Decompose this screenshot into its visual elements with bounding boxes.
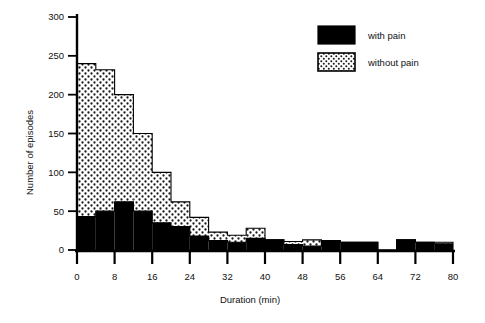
bar-segment-with-pain xyxy=(284,245,303,250)
bar-segment-with-pain xyxy=(115,202,134,250)
y-tick-label: 300 xyxy=(48,11,64,22)
bar-segment-with-pain xyxy=(152,223,171,250)
y-tick-label: 150 xyxy=(48,128,64,139)
histogram-svg: 050100150200250300 08162432404856647280 … xyxy=(0,0,485,323)
bar-segment-without-pain xyxy=(152,172,171,222)
x-tick-label: 72 xyxy=(410,271,421,282)
bar-segment-without-pain xyxy=(96,70,115,211)
bar-segment-with-pain xyxy=(227,242,246,250)
x-tick-label: 56 xyxy=(335,271,346,282)
y-tick-label: 0 xyxy=(59,244,64,255)
y-tick-label: 100 xyxy=(48,167,64,178)
bar-segment-without-pain xyxy=(77,64,96,217)
bar-segment-with-pain xyxy=(359,242,378,250)
bar-segment-without-pain xyxy=(303,240,322,246)
bar-segment-with-pain xyxy=(321,241,340,250)
bar-segment-without-pain xyxy=(171,202,190,227)
y-tick-label: 250 xyxy=(48,50,64,61)
bar-segment-with-pain xyxy=(265,240,284,250)
x-axis-title: Duration (min) xyxy=(220,294,280,305)
x-tick-label: 16 xyxy=(147,271,158,282)
bar-segment-with-pain xyxy=(77,217,96,250)
x-tick-label: 48 xyxy=(297,271,308,282)
bar-segment-with-pain xyxy=(340,242,359,250)
bar-segment-without-pain xyxy=(190,217,209,236)
x-tick-label: 8 xyxy=(112,271,117,282)
bar-segment-with-pain xyxy=(190,236,209,250)
bar-segment-with-pain xyxy=(434,244,453,250)
bar-segment-with-pain xyxy=(209,241,228,250)
x-tick-label: 24 xyxy=(185,271,196,282)
x-tick-label: 40 xyxy=(260,271,271,282)
bar-segment-with-pain xyxy=(171,227,190,250)
y-tick-label: 200 xyxy=(48,89,64,100)
bar-segment-without-pain xyxy=(246,228,265,238)
bar-segment-without-pain xyxy=(209,232,228,241)
x-tick-label: 80 xyxy=(448,271,459,282)
legend-label-with-pain: with pain xyxy=(367,30,406,41)
bar-segment-without-pain xyxy=(115,95,134,202)
legend-label-without-pain: without pain xyxy=(367,57,419,68)
bar-segment-without-pain xyxy=(227,235,246,242)
bar-segment-with-pain xyxy=(96,211,115,250)
legend-swatch-without-pain xyxy=(318,53,355,71)
bar-segment-with-pain xyxy=(397,240,416,250)
bar-segment-without-pain xyxy=(133,134,152,212)
y-tick-label: 50 xyxy=(53,206,64,217)
x-tick-label: 64 xyxy=(373,271,384,282)
bar-segment-with-pain xyxy=(133,211,152,250)
x-tick-label: 0 xyxy=(74,271,79,282)
bar-segment-with-pain xyxy=(246,238,265,250)
legend-swatch-with-pain xyxy=(318,26,355,44)
chart-figure: 050100150200250300 08162432404856647280 … xyxy=(0,0,485,323)
y-axis-title: Number of episodes xyxy=(24,110,35,195)
bar-segment-with-pain xyxy=(415,242,434,250)
x-tick-label: 32 xyxy=(222,271,233,282)
